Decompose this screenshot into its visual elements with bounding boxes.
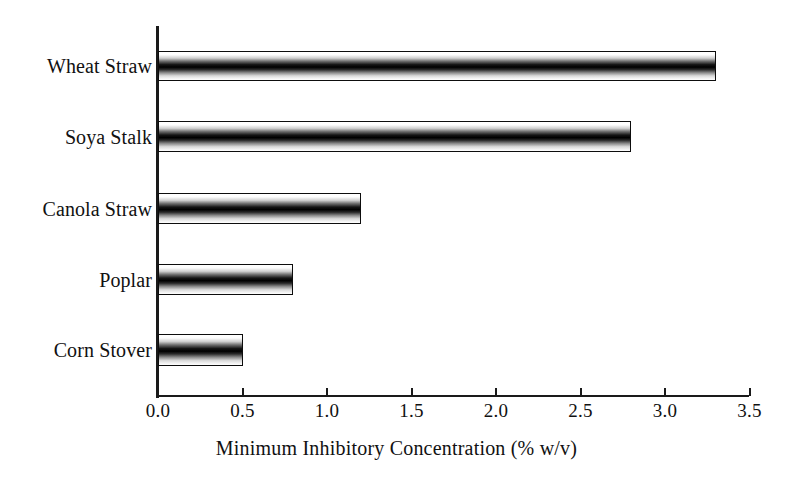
x-tick — [326, 388, 328, 396]
x-tick — [580, 388, 582, 396]
x-tick — [495, 388, 497, 396]
plot-area: 0.00.51.01.52.02.53.03.5 Wheat StrawSoya… — [0, 0, 793, 480]
bar — [158, 264, 293, 295]
category-label: Soya Stalk — [65, 125, 152, 148]
x-tick-label: 2.5 — [568, 400, 592, 422]
x-tick-label: 0.0 — [146, 400, 170, 422]
x-tick — [664, 388, 666, 396]
x-tick-label: 1.0 — [315, 400, 339, 422]
category-label: Canola Straw — [42, 197, 152, 220]
x-tick-label: 2.0 — [484, 400, 508, 422]
x-tick-label: 3.0 — [653, 400, 677, 422]
x-tick-label: 3.5 — [737, 400, 761, 422]
x-axis-line — [156, 395, 749, 397]
bar — [158, 121, 631, 152]
bar — [158, 193, 361, 224]
x-tick — [157, 388, 159, 396]
x-tick-label: 0.5 — [230, 400, 254, 422]
x-tick — [242, 388, 244, 396]
x-tick — [411, 388, 413, 396]
bar — [158, 51, 716, 81]
category-label: Corn Stover — [54, 339, 152, 362]
category-label: Poplar — [99, 268, 152, 291]
x-tick — [749, 388, 751, 396]
x-tick-label: 1.5 — [399, 400, 423, 422]
bar-chart: 0.00.51.01.52.02.53.03.5 Wheat StrawSoya… — [0, 0, 793, 480]
x-axis-title: Minimum Inhibitory Concentration (% w/v) — [0, 437, 793, 460]
category-label: Wheat Straw — [47, 55, 152, 78]
bar — [158, 334, 243, 366]
